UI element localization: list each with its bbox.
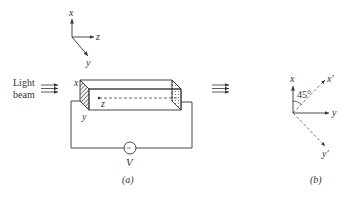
panel-b-axes: x y x′ y′ 45° — [289, 73, 337, 159]
y-axis-arrow — [72, 37, 88, 56]
crystal-z-label: z — [100, 98, 105, 109]
circuit: ~ V — [71, 101, 192, 168]
crystal: x y z — [73, 77, 181, 122]
y-axis-label: y — [85, 57, 91, 68]
light-beam: Light beam — [13, 77, 58, 100]
ac-symbol: ~ — [127, 144, 132, 153]
crystal-x-label: x — [73, 77, 79, 88]
angle-arc-icon — [293, 101, 302, 105]
voltage-label: V — [126, 156, 134, 168]
b-y-label: y — [331, 107, 337, 118]
outgoing-beam-arrows-icon — [212, 85, 229, 92]
incoming-beam-arrows-icon — [41, 85, 58, 92]
b-x-prime-label: x′ — [326, 73, 334, 84]
panel-a-caption: (a) — [122, 174, 134, 186]
circuit-right-wire — [136, 102, 192, 148]
crystal-top-face — [80, 80, 181, 89]
light-beam-label-line1: Light — [13, 77, 35, 88]
light-beam-label-line2: beam — [13, 89, 35, 100]
crystal-y-label: y — [81, 111, 87, 122]
crystal-exit-face — [172, 80, 181, 110]
b-x-label: x — [289, 73, 295, 84]
electro-optic-diagram: x z y Light beam x y z ~ — [0, 0, 352, 200]
coordinate-axes-top: x z y — [68, 7, 100, 68]
panel-b-caption: (b) — [310, 174, 322, 186]
x-axis-label: x — [68, 7, 74, 18]
b-y-prime-label: y′ — [321, 148, 329, 159]
angle-label: 45° — [297, 89, 311, 100]
z-axis-label: z — [95, 31, 100, 42]
circuit-left-wire — [71, 101, 124, 148]
b-y-prime-axis-arrow — [293, 113, 325, 146]
